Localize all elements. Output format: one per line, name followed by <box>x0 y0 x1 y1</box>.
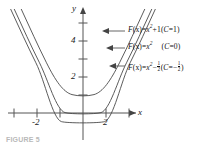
leader-line-c-1 <box>102 28 125 34</box>
figure-caption: FIGURE 5 <box>6 136 40 143</box>
legend-1-arg: (x) <box>133 25 142 34</box>
legend-label-c-neg-half: F(x)=x2−12(C=−12) <box>128 61 184 73</box>
legend-3-op: − <box>153 63 157 72</box>
legend-3-paren-close: ) <box>181 63 184 72</box>
legend-label-c-1: F(x)=x2+1(C=1) <box>128 26 180 34</box>
legend-3-arg: (x) <box>133 63 142 72</box>
y-tick-label-4: 4 <box>71 36 76 45</box>
x-axis-label: x <box>138 108 142 117</box>
figure-container: y x -2 2 2 4 F(x)=x2+1(C=1) F(x)=x2(C=0)… <box>0 0 207 145</box>
legend-label-c-0: F(x)=x2(C=0) <box>128 43 180 51</box>
x-axis <box>8 109 136 118</box>
legend-1-paren-close: ) <box>177 25 180 34</box>
legend-3-c-sign: − <box>173 63 177 72</box>
x-tick-label-2: 2 <box>103 118 108 127</box>
legend-2-power: 2 <box>150 40 153 46</box>
y-axis-label: y <box>72 4 76 13</box>
leader-line-c-0 <box>106 45 125 51</box>
legend-2-arg: (x) <box>133 42 142 51</box>
legend-2-paren-close: ) <box>178 42 181 51</box>
x-tick-label-neg2: -2 <box>32 118 40 127</box>
y-tick-label-2: 2 <box>71 72 76 81</box>
y-axis <box>79 7 88 140</box>
